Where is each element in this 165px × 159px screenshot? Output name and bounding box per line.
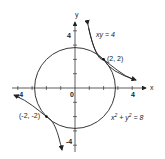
origin-label: 0 [70, 91, 74, 98]
chart: x y -4 0 4 4 -4 xy = 4 (2, 2) (-2, -2) x… [0, 0, 165, 159]
point-label-2-2: (2, 2) [107, 55, 123, 62]
x-tick-label-neg4: -4 [17, 91, 23, 98]
hyperbola-branch-negative [16, 96, 61, 148]
point-neg2-neg2 [45, 115, 48, 118]
plot-area [0, 0, 165, 159]
y-axis-label: y [75, 11, 79, 18]
point-label-neg2-neg2: (-2, -2) [19, 112, 40, 119]
x-tick-label-4: 4 [131, 91, 135, 98]
y-tick-label-4: 4 [67, 32, 71, 39]
x-axis-label: x [150, 84, 154, 91]
hyperbola-label: xy = 4 [96, 31, 115, 38]
y-tick-label-neg4: -4 [66, 138, 72, 145]
point-2-2 [102, 58, 105, 61]
circle-label: x2 + y2 = 8 [111, 113, 143, 121]
